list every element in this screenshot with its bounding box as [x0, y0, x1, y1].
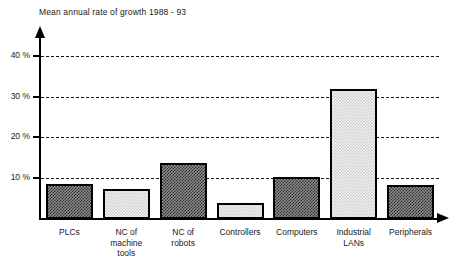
y-axis-tick-label: 20 % — [0, 131, 30, 141]
x-axis-label-line: Peripherals — [378, 227, 443, 238]
y-axis-tick — [33, 55, 41, 57]
x-axis-label-line: robots — [151, 238, 216, 249]
x-axis-label-line: PLCs — [37, 227, 102, 238]
y-axis-tick-label: 30 % — [0, 91, 30, 101]
x-axis-label-line: NC of — [151, 227, 216, 238]
y-axis-tick — [33, 136, 41, 138]
x-axis-label: Controllers — [208, 227, 273, 238]
x-axis-label-line: Computers — [264, 227, 329, 238]
x-axis-label: PLCs — [37, 227, 102, 238]
bar — [273, 177, 320, 219]
bar — [387, 185, 434, 219]
bar — [46, 184, 93, 219]
x-axis-label: NC ofrobots — [151, 227, 216, 248]
bar-series — [41, 36, 439, 219]
y-axis-tick — [33, 96, 41, 98]
x-axis-label: Peripherals — [378, 227, 443, 238]
x-axis-label-line: Controllers — [208, 227, 273, 238]
x-axis-label-line: Industrial — [321, 227, 386, 238]
x-axis-label-line: NC of — [94, 227, 159, 238]
x-axis-label: IndustrialLANs — [321, 227, 386, 248]
bar — [330, 89, 377, 219]
x-axis-label-line: tools — [94, 248, 159, 259]
x-axis-label-line: LANs — [321, 238, 386, 249]
chart-title: Mean annual rate of growth 1988 - 93 — [39, 7, 186, 17]
y-axis-tick-label: 40 % — [0, 50, 30, 60]
bar — [160, 163, 207, 219]
bar — [217, 203, 264, 219]
y-axis-tick-label: 10 % — [0, 172, 30, 182]
x-axis-label: NC ofmachinetools — [94, 227, 159, 259]
y-axis-tick — [33, 177, 41, 179]
x-axis-label: Computers — [264, 227, 329, 238]
bar — [103, 189, 150, 219]
bar-chart: Mean annual rate of growth 1988 - 93 10 … — [0, 0, 466, 275]
x-axis-label-line: machine — [94, 238, 159, 249]
